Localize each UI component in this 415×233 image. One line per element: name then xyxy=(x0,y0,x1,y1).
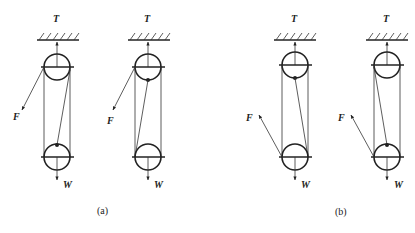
weight-label: W xyxy=(394,179,404,190)
figure-b2: T F W xyxy=(337,13,408,190)
force-arrow xyxy=(351,115,374,157)
rope-diagonal xyxy=(374,67,387,145)
tension-label: T xyxy=(291,13,298,24)
ceiling-hatch-icon xyxy=(37,33,79,40)
force-arrow xyxy=(259,115,282,157)
force-label: F xyxy=(12,111,20,122)
top-pulley xyxy=(132,54,165,82)
ceiling-hatch-icon xyxy=(366,33,408,40)
bottom-pulley xyxy=(132,144,165,170)
force-arrow xyxy=(22,67,44,110)
weight-label: W xyxy=(154,179,164,190)
tension-label: T xyxy=(383,13,390,24)
bottom-pulley xyxy=(41,143,74,170)
force-label: F xyxy=(106,115,114,126)
force-label: F xyxy=(245,112,253,123)
ceiling-hatch-icon xyxy=(128,33,170,40)
weight-label: W xyxy=(63,179,73,190)
bottom-pulley xyxy=(279,144,312,170)
caption-a: (a) xyxy=(97,205,108,217)
weight-label: W xyxy=(301,179,311,190)
figure-b1: T F W xyxy=(245,13,316,190)
top-pulley xyxy=(371,52,404,78)
bottom-pulley xyxy=(371,143,404,170)
force-label: F xyxy=(337,112,345,123)
caption-b: (b) xyxy=(335,206,347,218)
force-arrow xyxy=(113,67,135,110)
figure-a2: T F W xyxy=(106,13,170,190)
tension-label: T xyxy=(144,13,151,24)
ceiling-hatch-icon xyxy=(274,33,316,40)
rope-diagonal xyxy=(57,70,70,145)
figure-a1: T F W xyxy=(12,13,79,190)
top-pulley xyxy=(279,52,312,80)
pulley-diagram: T F W T xyxy=(0,0,415,233)
tension-label: T xyxy=(53,13,60,24)
